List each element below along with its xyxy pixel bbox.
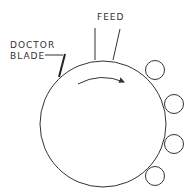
feed-label: FEED xyxy=(97,12,124,22)
rotation-arrow-icon xyxy=(78,77,124,84)
drum-circle xyxy=(40,61,166,187)
doctor-label-line1: DOCTOR xyxy=(10,40,55,50)
roller-2 xyxy=(165,95,184,114)
roller-3 xyxy=(165,135,184,154)
feed-line-right xyxy=(113,29,120,60)
drum-diagram: FEED DOCTOR BLADE xyxy=(0,0,194,195)
roller-1 xyxy=(146,61,165,80)
doctor-label-line2: BLADE xyxy=(10,51,45,61)
roller-4 xyxy=(146,167,165,186)
doctor-blade xyxy=(59,54,65,77)
